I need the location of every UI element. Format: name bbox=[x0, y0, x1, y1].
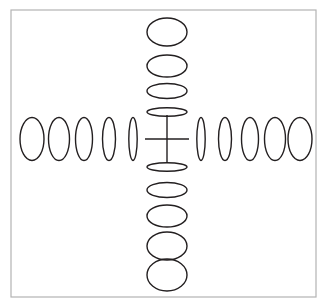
figure-canvas bbox=[0, 0, 334, 305]
ellipse-cross-diagram bbox=[0, 0, 334, 305]
